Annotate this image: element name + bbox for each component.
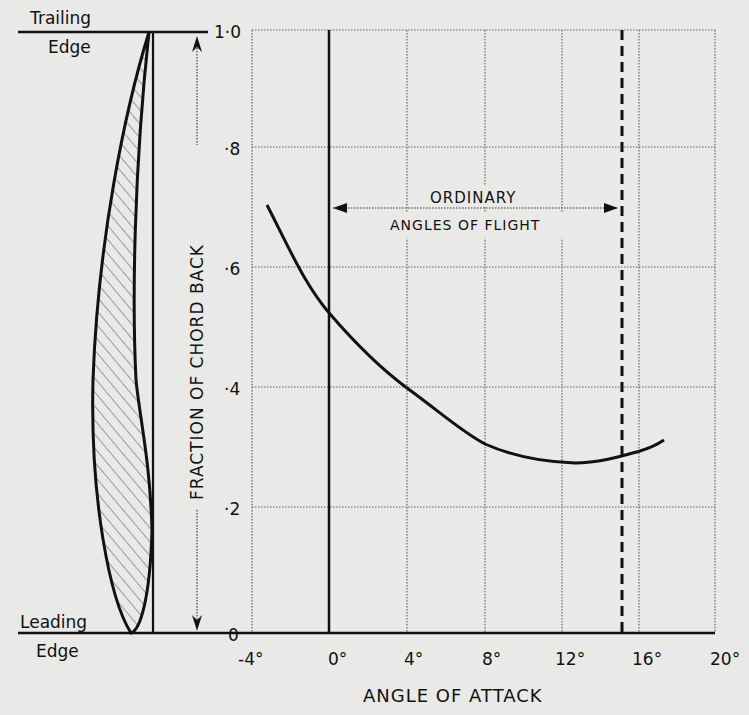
angles-of-flight-label: ANGLES OF FLIGHT [390,217,540,233]
y-tick-labels: 1·0 ·8 ·6 ·4 ·2 0 [214,22,241,645]
svg-text:16°: 16° [632,649,662,669]
svg-text:·2: ·2 [224,499,240,519]
x-axis-title: ANGLE OF ATTACK [363,685,543,706]
svg-text:20°: 20° [710,649,740,669]
y-axis-title: FRACTION OF CHORD BACK [187,244,207,500]
leading-label: Leading [20,612,87,632]
svg-text:0°: 0° [328,649,347,669]
svg-text:·6: ·6 [224,259,240,279]
trailing-label: Trailing [29,8,91,28]
centre-of-pressure-curve [267,205,664,463]
svg-text:8°: 8° [482,649,501,669]
svg-text:4°: 4° [404,649,423,669]
grid [252,30,715,632]
svg-text:·8: ·8 [224,139,240,159]
svg-text:12°: 12° [555,649,585,669]
chart-figure: Trailing Edge Leading Edge ORDINARY ANGL… [0,0,749,715]
ordinary-label: ORDINARY [430,189,516,207]
trailing-edge-label: Edge [48,37,91,57]
svg-text:0: 0 [228,625,239,645]
airfoil-section [93,32,152,633]
svg-text:-4°: -4° [238,649,263,669]
svg-text:·4: ·4 [224,379,240,399]
x-tick-labels: -4° 0° 4° 8° 12° 16° 20° [238,649,740,669]
svg-text:1·0: 1·0 [214,22,241,42]
leading-edge-label: Edge [36,641,79,661]
